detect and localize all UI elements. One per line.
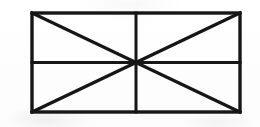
figure-canvas: Rectangle with midlines and diagonals A …	[0, 0, 260, 127]
geometric-figure: Rectangle with midlines and diagonals A …	[0, 0, 260, 127]
figure-strokes	[32, 13, 240, 112]
